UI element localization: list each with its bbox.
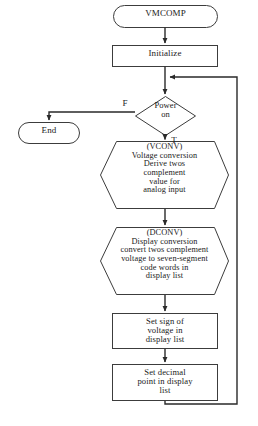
end-terminator[interactable] — [18, 122, 80, 144]
dconv-node[interactable] — [100, 227, 229, 295]
flowchart-canvas: VMCOMP Initialize Power on End (VCONV) V… — [0, 0, 258, 426]
start-terminator[interactable] — [113, 5, 218, 28]
initialize-node[interactable] — [112, 45, 218, 67]
set-decimal-node[interactable] — [112, 364, 218, 401]
set-sign-node[interactable] — [112, 313, 218, 349]
power-on-decision-node[interactable] — [135, 96, 196, 136]
vconv-node[interactable] — [100, 141, 229, 209]
false-branch-label: F — [118, 99, 132, 108]
edge-power-on-false-to-end — [49, 112, 135, 120]
